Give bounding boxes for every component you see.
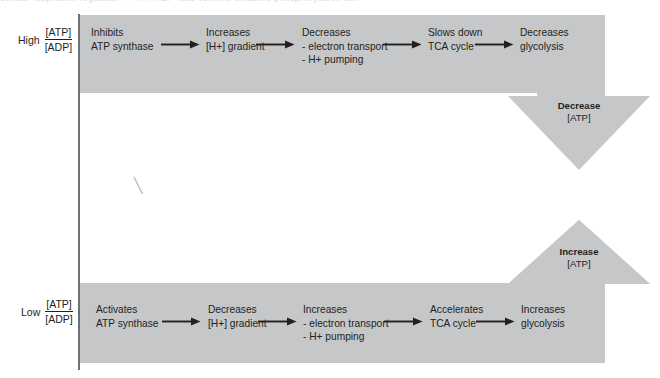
arrow-right-icon <box>475 40 515 49</box>
increase-atp-block-arrow: Increase [ATP] <box>506 218 652 286</box>
high-step-1: Inhibits ATP synthase <box>91 26 153 53</box>
figure-canvas: cellular respiration regulation — ATP/AD… <box>0 0 660 378</box>
arrow-right-icon <box>383 40 423 49</box>
low-connector-1 <box>162 317 202 326</box>
high-connector-3 <box>383 40 423 49</box>
arrow-right-icon <box>161 40 201 49</box>
high-atp-ratio-denominator: [ADP] <box>45 40 72 53</box>
arrow-right-icon <box>258 317 298 326</box>
arrow-right-icon <box>162 317 202 326</box>
arrow-right-icon <box>256 40 296 49</box>
high-atp-ratio-label: High [ATP] [ADP] <box>18 26 72 54</box>
low-atp-ratio-label: Low [ATP] [ADP] <box>21 298 73 326</box>
low-step-1: Activates ATP synthase <box>96 303 158 330</box>
high-atp-ratio-prefix: High <box>18 34 40 46</box>
arrow-right-icon <box>384 317 424 326</box>
arrow-right-icon <box>476 317 516 326</box>
high-step-3: Decreases - electron transport - H+ pump… <box>302 26 388 67</box>
low-step-5: Increases glycolysis <box>521 303 565 330</box>
low-connector-2 <box>258 317 298 326</box>
high-connector-1 <box>161 40 201 49</box>
low-atp-ratio-fraction: [ATP] [ADP] <box>45 298 72 326</box>
low-connector-4 <box>476 317 516 326</box>
increase-atp-label: Increase [ATP] <box>536 246 622 271</box>
high-connector-2 <box>256 40 296 49</box>
low-atp-ratio-numerator: [ATP] <box>45 298 72 312</box>
low-atp-ratio-denominator: [ADP] <box>45 312 72 325</box>
high-atp-ratio-fraction: [ATP] [ADP] <box>45 26 72 54</box>
scan-pencil-mark-artifact <box>133 176 145 196</box>
low-atp-ratio-prefix: Low <box>21 306 40 318</box>
high-step-5: Decreases glycolysis <box>520 26 569 53</box>
decrease-atp-label: Decrease [ATP] <box>536 100 622 125</box>
block-arrow-down-icon <box>506 84 652 172</box>
high-connector-4 <box>475 40 515 49</box>
low-step-3: Increases - electron transport - H+ pump… <box>303 303 389 344</box>
low-connector-3 <box>384 317 424 326</box>
decrease-atp-block-arrow: Decrease [ATP] <box>506 84 652 172</box>
scan-header-text-remnant: cellular respiration regulation — ATP/AD… <box>0 0 660 10</box>
high-atp-ratio-numerator: [ATP] <box>45 26 72 40</box>
